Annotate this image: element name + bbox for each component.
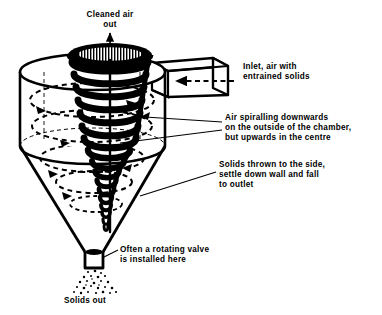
label-air-spiralling: Air spiralling downwards on the outside … xyxy=(225,113,382,144)
label-solids-out: Solids out xyxy=(64,296,154,306)
cyclone-diagram-page: Cleaned air out Inlet, air with entraine… xyxy=(0,0,382,315)
label-inlet: Inlet, air with entrained solids xyxy=(243,62,378,82)
cyclone-diagram-graphic xyxy=(0,0,382,315)
label-rotating-valve: Often a rotating valve is installed here xyxy=(120,245,270,265)
label-cleaned-air-out: Cleaned air out xyxy=(64,10,156,30)
solids-outlet xyxy=(85,249,103,268)
label-solids-thrown: Solids thrown to the side, settle down w… xyxy=(219,160,379,191)
